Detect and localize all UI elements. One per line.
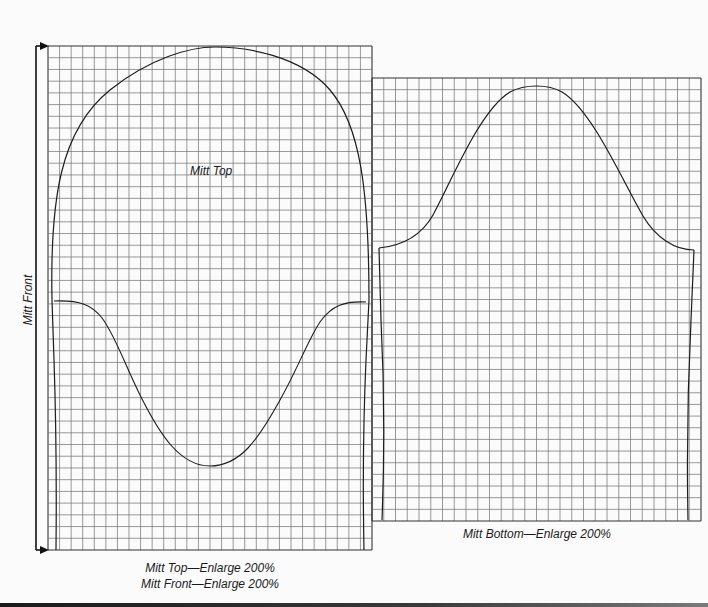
mitt-top-right-side <box>363 300 369 550</box>
mitt-bottom-grid <box>372 78 701 521</box>
caption-mitt-front: Mitt Front—Enlarge 200% <box>141 576 279 592</box>
mitt-bottom-left-side <box>379 248 384 520</box>
pattern-sheet: Mitt Top Mitt Front Mitt Top—Enlarge 200… <box>0 0 708 607</box>
caption-left: Mitt Top—Enlarge 200% Mitt Front—Enlarge… <box>141 560 279 592</box>
mitt-bottom-right-side <box>687 250 694 520</box>
pattern-drawing <box>0 0 708 607</box>
mitt-top-left-side <box>52 300 56 550</box>
fold-arrow <box>36 42 49 554</box>
mitt-front-side-label: Mitt Front <box>21 275 35 326</box>
bottom-edge-bar <box>0 603 708 607</box>
caption-mitt-bottom: Mitt Bottom—Enlarge 200% <box>463 527 611 541</box>
caption-mitt-top: Mitt Top—Enlarge 200% <box>141 560 279 576</box>
mitt-top-grid <box>48 46 372 550</box>
mitt-top-label: Mitt Top <box>190 164 232 178</box>
